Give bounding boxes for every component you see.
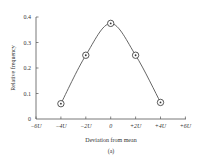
figure-caption: (a) <box>108 148 115 155</box>
data-point-marker <box>157 99 163 105</box>
y-tick-label: 0.3 <box>24 40 32 46</box>
chart: 00.10.20.30.4 −6U−4U−2U0+2U+4U+6U Relati… <box>0 0 202 161</box>
y-axis-title: Relative frequency <box>10 45 16 90</box>
data-point-marker <box>108 20 114 26</box>
x-tick-label: −2U <box>80 123 92 129</box>
x-tick-label: 0 <box>109 123 112 129</box>
data-point-marker <box>58 101 64 107</box>
frequency-curve <box>61 23 161 103</box>
x-ticks: −6U−4U−2U0+2U+4U+6U <box>30 117 191 130</box>
x-tick-label: +4U <box>155 123 167 129</box>
y-tick-label: 0 <box>28 116 31 122</box>
x-tick-label: +6U <box>180 123 192 129</box>
data-point-marker <box>83 52 89 58</box>
y-tick-label: 0.1 <box>24 91 32 97</box>
x-axis-title: Deviation from mean <box>85 137 136 143</box>
y-tick-label: 0.2 <box>24 65 32 71</box>
x-tick-label: −6U <box>30 123 42 129</box>
data-point-marker <box>132 52 138 58</box>
data-markers <box>58 20 164 107</box>
x-tick-label: −4U <box>55 123 67 129</box>
x-tick-label: +2U <box>130 123 142 129</box>
y-tick-label: 0.4 <box>24 14 32 20</box>
